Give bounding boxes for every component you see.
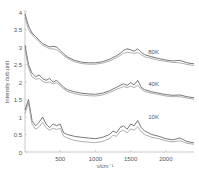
series-line — [25, 17, 194, 65]
temperature-label: 80K — [148, 49, 159, 55]
plot-lines — [25, 14, 194, 145]
y-tick-label: 2 — [19, 80, 23, 86]
y-tick-label: 1 — [19, 115, 23, 121]
series-line — [25, 100, 194, 143]
y-tick-label: 0 — [19, 150, 23, 156]
x-axis-title: ν/cm⁻¹ — [97, 163, 114, 169]
temperature-label: 40K — [148, 81, 159, 87]
y-axis-title: Intensity /arb.unit — [4, 61, 10, 103]
series-line — [25, 45, 194, 98]
y-tick-label: 3 — [19, 45, 23, 51]
y-tick-label: 0.5 — [14, 132, 23, 138]
x-tick-label: 500 — [55, 156, 66, 162]
y-tick-label: 2.5 — [14, 62, 23, 68]
y-tick-label: 3.5 — [14, 27, 23, 33]
spectra-chart: 00.511.522.533.54500100015002000ν/cm⁻¹In… — [0, 0, 199, 173]
temperature-label: 10K — [148, 114, 159, 120]
x-tick-label: 2000 — [159, 156, 173, 162]
x-tick-label: 1500 — [124, 156, 138, 162]
series-line — [25, 14, 194, 64]
series-line — [25, 49, 194, 99]
chart-svg: 00.511.522.533.54500100015002000ν/cm⁻¹In… — [0, 0, 199, 173]
series-line — [25, 103, 194, 144]
y-tick-label: 1.5 — [14, 97, 23, 103]
x-tick-label: 1000 — [89, 156, 103, 162]
y-tick-label: 4 — [19, 10, 23, 16]
